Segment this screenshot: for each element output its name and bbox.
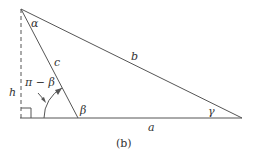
angle-gamma-label: γ (208, 105, 215, 118)
exterior-angle-label: π − β (24, 76, 55, 89)
angle-beta-label: β (79, 104, 86, 117)
side-c-label: c (54, 56, 60, 69)
side-b-label: b (131, 50, 138, 63)
side-a-label: a (148, 121, 155, 134)
figure-caption: (b) (116, 137, 132, 150)
arc-arrowhead (55, 88, 62, 95)
height-h-label: h (9, 86, 16, 99)
right-angle-marker (21, 108, 31, 118)
angle-alpha-label: α (31, 17, 39, 30)
side-c (21, 9, 78, 118)
triangle-diagram: α c b h π − β β γ a (b) (0, 0, 253, 155)
